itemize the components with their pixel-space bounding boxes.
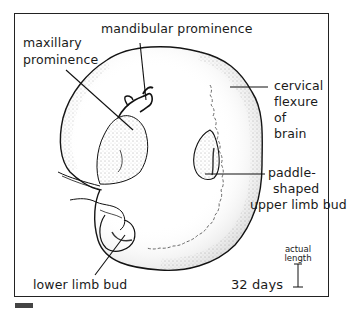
scale-bar (293, 264, 303, 287)
label-cervical-line1: cervical (274, 79, 323, 93)
label-cervical-line4: brain (274, 127, 307, 141)
section-marker (15, 303, 33, 308)
label-maxillary-line1: maxillary (23, 36, 82, 50)
label-lower-limb-bud: lower limb bud (33, 278, 127, 292)
label-maxillary-line2: prominence (23, 53, 98, 67)
embryo-body (60, 47, 262, 271)
label-mandibular-prominence: mandibular prominence (101, 22, 253, 36)
age-label: 32 days (231, 278, 283, 292)
label-upper-limb-line2: shaped (273, 182, 319, 196)
scale-label-line2: length (282, 254, 314, 263)
label-upper-limb-line3: upper limb bud (250, 198, 347, 212)
label-cervical-line3: of (274, 111, 286, 125)
label-upper-limb-line1: paddle- (268, 166, 316, 180)
label-cervical-line2: flexure (274, 95, 318, 109)
